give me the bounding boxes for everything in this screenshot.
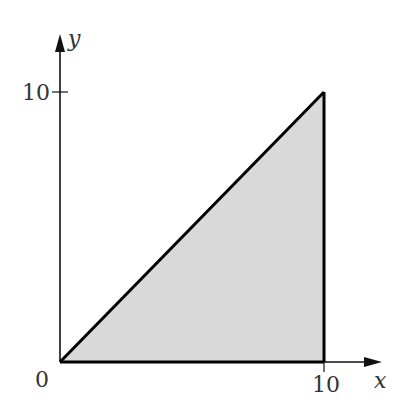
y-axis-label: y — [67, 26, 81, 51]
x-axis-label: x — [374, 368, 387, 393]
y-tick-label-10: 10 — [22, 80, 50, 105]
x-tick-label-10: 10 — [312, 372, 340, 397]
diagram: y x 10 10 0 — [0, 0, 408, 416]
x-axis-arrow-icon — [364, 357, 382, 367]
y-axis-arrow-icon — [55, 34, 65, 52]
origin-label: 0 — [35, 367, 49, 392]
